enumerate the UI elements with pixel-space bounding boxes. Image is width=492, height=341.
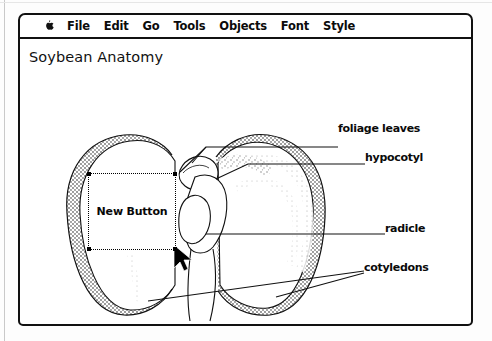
new-button-object[interactable]: New Button	[88, 173, 176, 250]
apple-icon[interactable]	[44, 17, 55, 36]
resize-handle-se[interactable]	[173, 247, 177, 251]
new-button-label: New Button	[97, 205, 168, 218]
resize-handle-ne[interactable]	[173, 172, 177, 176]
page-edge-left	[4, 0, 5, 341]
menu-item-file[interactable]: File	[67, 19, 90, 33]
resize-handle-sw[interactable]	[87, 247, 91, 251]
menu-bar: File Edit Go Tools Objects Font Style	[20, 15, 471, 39]
screenshot-canvas: File Edit Go Tools Objects Font Style So…	[0, 0, 492, 341]
menu-item-font[interactable]: Font	[281, 19, 309, 33]
page-edge-top	[0, 2, 492, 3]
resize-handle-nw[interactable]	[87, 172, 91, 176]
menu-item-tools[interactable]: Tools	[173, 19, 205, 33]
menu-item-go[interactable]: Go	[142, 19, 159, 33]
application-window: File Edit Go Tools Objects Font Style So…	[18, 13, 473, 326]
menu-item-edit[interactable]: Edit	[104, 19, 129, 33]
document-canvas[interactable]: Soybean Anatomy	[20, 39, 471, 324]
menu-item-objects[interactable]: Objects	[219, 19, 267, 33]
annotation-foliage-leaves[interactable]: foliage leaves	[338, 122, 420, 135]
annotation-cotyledons[interactable]: cotyledons	[364, 261, 429, 274]
annotation-hypocotyl[interactable]: hypocotyl	[365, 151, 423, 164]
menu-item-style[interactable]: Style	[323, 19, 355, 33]
annotation-radicle[interactable]: radicle	[385, 222, 425, 235]
